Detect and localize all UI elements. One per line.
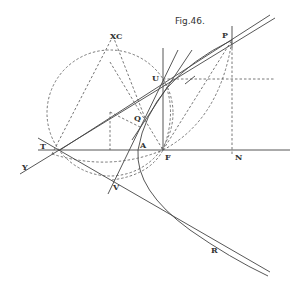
label-XC: XC (110, 31, 122, 41)
dash-XC-T (52, 36, 113, 154)
dash-arc-UF (163, 79, 171, 150)
label-Q: Q (134, 113, 141, 123)
tick-mark (185, 76, 195, 84)
tangent-line-TP (20, 18, 275, 174)
dash-FP (163, 40, 232, 150)
label-U: U (152, 73, 159, 83)
label-V: V (112, 182, 120, 192)
label-P: P (222, 30, 228, 40)
label-F: F (165, 152, 171, 162)
label-Y: Y (21, 162, 28, 172)
label-A: A (139, 140, 147, 150)
tangent-line-2 (60, 15, 270, 150)
label-R: R (211, 245, 218, 255)
figure-title: Fig.46. (175, 16, 205, 26)
geometry-figure: Fig.46. P U XC Q T A F N Y V R (0, 0, 299, 293)
line-VU (108, 50, 178, 194)
label-T: T (40, 141, 46, 151)
label-N: N (235, 152, 242, 162)
